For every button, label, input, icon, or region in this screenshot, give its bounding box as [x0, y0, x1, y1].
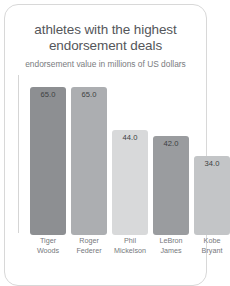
x-tick-label-line-1: Kobe	[194, 236, 230, 246]
bar-slot: 65.0	[71, 75, 107, 235]
bar-slot: 42.0	[153, 75, 189, 235]
chart-subtitle: endorsement value in millions of US doll…	[11, 59, 200, 70]
bar[interactable]	[153, 136, 189, 235]
x-tick-label-line-2: Federer	[71, 246, 107, 256]
chart-title: athletes with the highest endorsement de…	[15, 22, 196, 54]
x-tick-label-line-1: Phil	[112, 236, 148, 246]
x-tick-label: Kobe Bryant	[194, 236, 230, 255]
x-tick-label: Tiger Woods	[30, 236, 66, 255]
chart-title-line-2: endorsement deals	[15, 38, 196, 54]
x-tick-label-line-1: Roger	[71, 236, 107, 246]
x-tick-label-line-2: Woods	[30, 246, 66, 256]
bar-slot: 44.0	[112, 75, 148, 235]
bar-value-label: 65.0	[71, 90, 107, 99]
bar-slot: 65.0	[30, 75, 66, 235]
x-tick-label-line-2: Mickelson	[112, 246, 148, 256]
bar-slot: 34.0	[194, 75, 230, 235]
bar-series: 65.0 65.0 44.0 42.0 34.0	[30, 75, 206, 235]
chart-card: athletes with the highest endorsement de…	[4, 4, 207, 286]
x-tick-label-line-2: James	[153, 246, 189, 256]
bar-value-label: 44.0	[112, 133, 148, 142]
x-tick-label-line-2: Bryant	[194, 246, 230, 256]
bar[interactable]	[112, 130, 148, 235]
plot-area: 65.0 65.0 44.0 42.0 34.0	[5, 75, 206, 235]
x-tick-label-line-1: Tiger	[30, 236, 66, 246]
bar-value-label: 65.0	[30, 90, 66, 99]
bar[interactable]	[71, 87, 107, 235]
bar[interactable]	[30, 87, 66, 235]
bar-value-label: 34.0	[194, 159, 230, 168]
y-axis-line	[18, 75, 19, 233]
chart-title-line-1: athletes with the highest	[15, 22, 196, 38]
x-tick-label: LeBron James	[153, 236, 189, 255]
bar-value-label: 42.0	[153, 139, 189, 148]
x-axis-labels: Tiger Woods Roger Federer Phil Mickelson…	[30, 236, 206, 276]
x-tick-label: Phil Mickelson	[112, 236, 148, 255]
x-tick-label: Roger Federer	[71, 236, 107, 255]
x-tick-label-line-1: LeBron	[153, 236, 189, 246]
